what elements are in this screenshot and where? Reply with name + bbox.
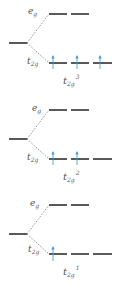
panel-t2g1: eg t2g t2g1: [0, 191, 131, 288]
electron-arrow-icon: [51, 151, 54, 165]
configuration-label: t2g2: [63, 170, 80, 183]
configuration-label: t2g3: [63, 74, 80, 87]
panel-t2g3: eg t2g t2g3: [0, 0, 131, 97]
t2g-label: t2g: [27, 57, 38, 67]
t2g-label: t2g: [28, 245, 39, 255]
eg-label: eg: [30, 199, 39, 209]
electron-arrow-icon: [75, 151, 78, 165]
eg-label: eg: [32, 104, 41, 114]
dashed-to-eg: [27, 205, 49, 234]
dashed-to-eg: [27, 14, 49, 43]
electron-arrow-icon: [98, 55, 101, 69]
eg-label: eg: [28, 7, 37, 17]
electron-arrow-icon: [51, 55, 54, 69]
t2g-label: t2g: [27, 153, 38, 163]
dashed-to-eg: [27, 110, 49, 139]
configuration-label: t2g1: [63, 265, 80, 278]
electron-arrow-icon: [75, 55, 78, 69]
panel-t2g2: eg t2g t2g2: [0, 96, 131, 193]
